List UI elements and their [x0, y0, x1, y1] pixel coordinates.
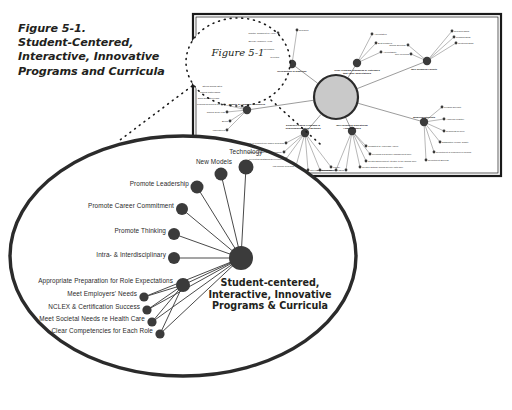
mini-leaf-node-3-4 — [433, 151, 436, 154]
mini-leaf-node-2-2 — [451, 30, 454, 33]
mini-leaf-node-4-2 — [365, 160, 368, 163]
mini-leaf-node-3-0 — [441, 106, 444, 109]
magnified-node-2 — [191, 181, 204, 194]
magnified-node-1 — [215, 168, 228, 181]
mini-leaf-label-0-1: Special Advanced Areas — [248, 40, 272, 43]
mini-leaf-label-0-2: Informatics — [263, 48, 274, 51]
figure-title-line-1: Figure 5-1. — [18, 22, 183, 36]
hub-label-line-3: Programs & Curricula — [205, 300, 335, 312]
mini-branch-node-1 — [353, 59, 361, 67]
magnified-node-9 — [147, 317, 156, 326]
mini-branch-node-2 — [423, 57, 431, 65]
mini-leaf-label-6-4: Clinical Tools / Lab — [207, 111, 225, 114]
mini-leaf-label-3-1: Academic Practice — [446, 118, 464, 121]
mini-leaf-node-1-2 — [380, 51, 383, 54]
magnified-node-label-0: Technology — [186, 148, 306, 155]
mini-leaf-label-6-1: Clinical Partnerships — [200, 91, 220, 94]
magnified-node-6 — [176, 278, 190, 292]
mini-leaf-node-2-0 — [407, 44, 410, 47]
figure-title: Figure 5-1. Student-Centered, Interactiv… — [18, 22, 183, 79]
mini-leaf-node-6-4 — [226, 111, 229, 114]
mini-leaf-label-5-4: Inter-Intranet — [310, 169, 323, 172]
mini-leaf-label-2-1: Role Modeling — [395, 53, 409, 56]
mini-hub — [314, 75, 358, 119]
mini-branch-label-6: Quality & Adequate Resources — [224, 103, 270, 106]
mini-leaf-label-6-2: Skills Simulation Labs — [198, 97, 219, 100]
magnified-node-label-9: Meet Societal Needs re Health Care — [0, 315, 145, 322]
mini-branch-label-0: Recognition of Expertise — [269, 70, 315, 73]
mini-leaf-label-5-2: Preceptors Sustaining Development — [249, 158, 284, 161]
magnified-node-label-6: Appropriate Preparation for Role Expecta… — [0, 277, 173, 284]
mini-leaf-node-3-2 — [443, 130, 446, 133]
mini-branch-label-5: Evidence-based Programs & Teaching/Evalu… — [280, 124, 326, 130]
mini-leaf-label-4-0: Consistent & Achievable Vision — [368, 145, 398, 148]
magnified-node-label-7: Meet Employers' Needs — [0, 290, 137, 297]
mini-leaf-label-6-0: Strong Clinical Sites — [202, 85, 222, 88]
mini-leaf-node-6-5 — [229, 120, 232, 123]
mini-leaf-node-5-0 — [285, 142, 288, 145]
mini-leaf-label-5-5: Simulation — [322, 169, 332, 172]
figure-title-line-4: Programs and Curricula — [18, 65, 183, 79]
magnified-node-7 — [139, 292, 148, 301]
magnified-node-label-8: NCLEX & Certification Success — [0, 303, 140, 310]
mini-branch-node-3 — [420, 118, 428, 126]
mini-leaf-node-1-0 — [371, 33, 374, 36]
mini-leaf-node-3-3 — [439, 141, 442, 144]
mini-leaf-label-5-3: Lab Clinical Research — [273, 165, 294, 168]
mini-leaf-label-5-6: Faculty — [333, 166, 340, 169]
magnified-node-5 — [168, 252, 180, 264]
mini-leaf-label-6-5: Books — [222, 120, 228, 123]
mini-leaf-label-2-0: Clinical Expertise — [389, 44, 406, 47]
mini-branch-label-4: Well-prepared Educational Administrators — [329, 124, 375, 130]
mini-leaf-label-5-1: Qualified Clinically Relevant Faculty — [247, 151, 282, 154]
mini-leaf-label-2-2: Research Skills — [454, 30, 469, 33]
figure-title-line-3: Interactive, Innovative — [18, 50, 183, 64]
magnified-node-label-2: Promote Leadership — [0, 180, 189, 187]
mini-branch-node-6 — [243, 106, 251, 114]
mini-branch-node-5 — [301, 129, 309, 137]
magnified-node-3 — [176, 203, 188, 215]
mini-leaf-node-1-1 — [375, 42, 378, 45]
mini-leaf-label-3-3: Satisfaction of Care Quality — [442, 141, 469, 144]
magnified-node-label-4: Promote Thinking — [0, 227, 166, 234]
mini-branch-label-1: Clear Program Standards & Outcomes that … — [334, 69, 380, 75]
magnified-node-label-10: Clear Competencies for Each Role — [0, 327, 153, 334]
mini-branch-label-2: Well-prepared Faculty — [401, 68, 447, 71]
mini-leaf-label-3-2: Readiness for Role — [446, 130, 465, 133]
mini-leaf-label-3-0: Program Diversity — [444, 106, 461, 109]
mini-leaf-label-1-0: Accreditation — [374, 33, 387, 36]
magnified-node-label-5: Intra- & Interdisciplinary — [0, 251, 166, 258]
magnified-node-8 — [142, 305, 151, 314]
mini-leaf-node-2-4 — [455, 42, 458, 45]
mini-leaf-label-3-5: Recruitment Success — [428, 159, 449, 162]
mini-leaf-label-4-1: Providing a Resource Management Role — [372, 153, 411, 156]
magnified-hub-node — [229, 246, 253, 270]
magnified-node-10 — [155, 329, 164, 338]
hub-label-line-1: Student-centered, — [205, 277, 335, 289]
mini-leaf-node-4-0 — [365, 145, 368, 148]
mini-leaf-node-4-1 — [369, 153, 372, 156]
hub-label-line-2: Interactive, Innovative — [205, 289, 335, 301]
mini-leaf-label-2-3: Teaching Skills — [456, 36, 470, 39]
mini-leaf-label-4-2: Creates Environment Attentive to the Cli… — [368, 160, 416, 163]
mini-leaf-node-2-3 — [453, 36, 456, 39]
mini-leaf-node-3-5 — [425, 159, 428, 162]
mini-leaf-label-0-0: Practice Judgment on Acuity — [248, 32, 276, 35]
mini-leaf-node-2-1 — [410, 53, 413, 56]
mini-leaf-label-2-4: Mentoring Skills — [458, 42, 473, 45]
mini-leaf-label-4-3: Creates Optimal Clinical Service with Ca… — [362, 166, 403, 169]
callout-connector-left — [120, 86, 192, 140]
magnified-node-label-3: Promote Career Commitment — [0, 202, 174, 209]
mini-leaf-label-6-6: Laboratories — [213, 129, 225, 132]
mini-branch-label-3: Qualified Students — [401, 116, 447, 119]
mini-leaf-label-5-0: Focus on Competency-based Research — [245, 142, 284, 145]
figure-canvas: Figure 5-1. Student-Centered, Interactiv… — [0, 0, 512, 410]
mini-leaf-label-0-4: Research — [299, 29, 308, 32]
mini-leaf-node-4-3 — [359, 166, 362, 169]
mini-leaf-node-4-5 — [345, 169, 348, 172]
mini-leaf-label-3-4: Recruitment of Underserved Groups — [436, 151, 471, 154]
mini-leaf-node-0-4 — [296, 29, 299, 32]
hub-label: Student-centered, Interactive, Innovativ… — [205, 277, 335, 312]
mini-leaf-node-6-6 — [226, 129, 229, 132]
mini-leaf-label-0-3: Genetics — [270, 56, 279, 59]
